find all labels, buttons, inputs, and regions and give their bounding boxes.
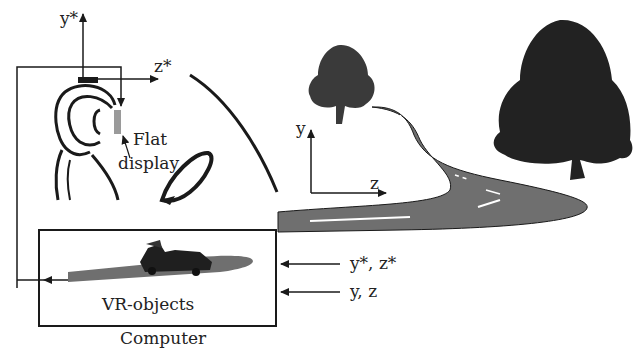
diagram-canvas — [0, 0, 637, 354]
world-y-axis-label: y — [296, 120, 306, 137]
flat-display-label-line2: display — [118, 155, 179, 172]
feedback-wire — [17, 67, 121, 288]
small-tree-icon — [309, 45, 375, 124]
flat-display-label-line1: Flat — [133, 131, 167, 148]
world-coords-input-label: y, z — [350, 283, 377, 300]
vr-objects-label: VR-objects — [102, 296, 194, 313]
user-with-hmd-icon — [56, 77, 121, 200]
windshield-arc — [190, 75, 277, 192]
large-tree-icon — [494, 20, 633, 180]
head-z-axis-label: z* — [154, 58, 171, 75]
world-z-axis-label: z — [370, 175, 379, 192]
computer-caption: Computer — [120, 330, 206, 347]
vr-road-icon — [17, 256, 253, 282]
head-y-axis-label: y* — [60, 10, 78, 27]
head-coords-input-label: y*, z* — [350, 255, 396, 272]
